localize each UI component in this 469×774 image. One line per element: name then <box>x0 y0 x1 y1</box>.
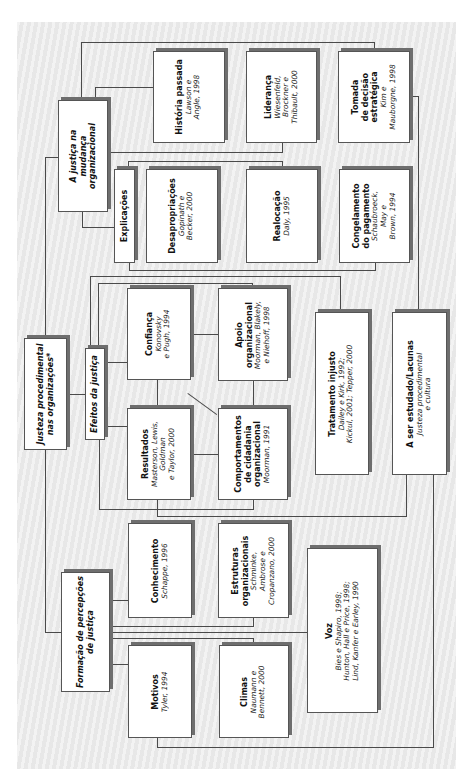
branch-box-efeitos-da-justica: Efeitos da justiça <box>85 348 105 440</box>
node-citation: Brown, 1994 <box>389 183 398 248</box>
node-conhecimento: Conhecimento Schappe, 1996 <box>128 523 192 618</box>
branch-box-mudanca-organizacional: A justiça na mudança organizacional <box>58 100 108 212</box>
root-title-line-1: Justeza procedimental <box>36 344 46 445</box>
node-citation: e Niehoff, 1998 <box>263 300 272 368</box>
node-citation: Lind, Kanfer e Earley, 1990 <box>352 581 361 681</box>
node-citation: Bennett, 2000 <box>259 665 268 718</box>
node-title: Voz <box>324 581 334 681</box>
node-a-ser-estudado: A ser estudado/Lacunas Justeza procedime… <box>392 312 447 475</box>
branch-title-line: A justiça na <box>69 123 79 189</box>
node-historia-passada: História passada Lawson e Angle, 1998 <box>153 51 225 143</box>
node-citation: Thibault, 2000 <box>291 70 300 124</box>
node-tomada-de-decisao: Tomada de decisão estratégica Kim e Maub… <box>338 51 410 143</box>
branch-title-line: de justiça <box>86 576 96 688</box>
node-citation: Moorman, 1991 <box>263 415 272 493</box>
node-title: Comportamentos <box>234 415 244 493</box>
node-citation: Schappe, 1996 <box>160 538 169 602</box>
node-citation: Kickul, 2001; Tepper, 2000 <box>347 344 356 442</box>
node-title: Tomada <box>351 64 361 129</box>
node-citation: Tyler, 1994 <box>160 671 169 712</box>
node-title: Estruturas <box>231 535 241 606</box>
root-box-justeza-procedimental: Justeza procedimental nas organizações* <box>24 338 67 450</box>
node-citation: Daly, 1995 <box>282 191 291 242</box>
node-title: de cidadania <box>244 415 254 493</box>
node-comportamentos-cidadania: Comportamentos de cidadania organizacion… <box>218 408 288 500</box>
node-citation: e cultura <box>424 340 433 448</box>
node-lideranca: Liderança Wiesenfeld, Brockner e Thibaul… <box>246 51 317 143</box>
branch-title-line: organizacional <box>88 123 98 189</box>
node-citation: e Pugh, 1994 <box>164 310 173 359</box>
node-tratamento-injusto: Tratamento injusto Dailey e Kirk, 1992; … <box>315 312 369 475</box>
node-title: de decisão <box>360 64 370 129</box>
node-congelamento-pagamento: Congelamento do pagamento Schaubroeck, M… <box>339 169 410 263</box>
node-title: Explicações <box>120 190 130 242</box>
node-title: Liderança <box>263 70 273 124</box>
branch-title: Efeitos da justiça <box>90 355 100 433</box>
root-title-line-2: nas organizações* <box>46 344 56 445</box>
node-explicacoes: Explicações <box>114 169 135 263</box>
node-voz: Voz Bies e Shapiro, 1998; Hunton, Hall e… <box>307 548 378 713</box>
node-motivos: Motivos Tyler, 1994 <box>128 645 192 738</box>
node-estruturas-organizacionais: Estruturas organizacionais Schminke, Amb… <box>218 523 289 618</box>
node-resultados: Resultados Masterson, Lewis, Goldman e T… <box>127 408 191 500</box>
branch-title-line: Formação de percepções <box>76 576 86 688</box>
node-apoio-organizacional: Apoio organizacional Moorman, Blakely, e… <box>218 288 288 381</box>
node-climas: Climas Naumann e Bennett, 2000 <box>219 645 289 738</box>
node-desapropriacoes: Desapropriações Gopinath e Becker, 2000 <box>146 169 218 263</box>
node-citation: Cropanzano, 2000 <box>268 535 277 606</box>
node-title: Congelamento <box>352 183 362 248</box>
node-confianca: Confiança Konovsky e Pugh, 1994 <box>127 288 191 380</box>
node-realocacao: Realocação Daly, 1995 <box>246 169 318 263</box>
node-title: A ser estudado/Lacunas <box>406 340 416 448</box>
branch-title-line: mudança <box>78 123 88 189</box>
node-title: Apoio <box>235 300 245 368</box>
node-citation: Becker, 2000 <box>187 178 196 254</box>
node-citation: e Taylor, 2000 <box>168 421 177 487</box>
branch-box-formacao-percepcoes: Formação de percepções de justiça <box>61 572 110 692</box>
node-citation: Mauborgne, 1998 <box>388 64 397 129</box>
node-citation: Angle, 1998 <box>194 59 203 135</box>
